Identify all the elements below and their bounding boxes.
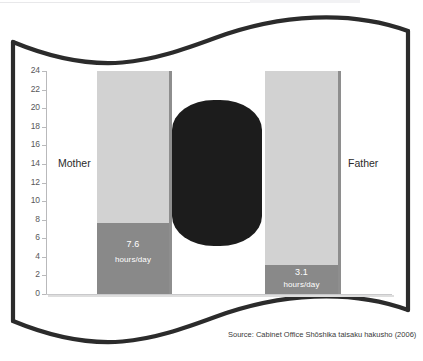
y-tick-mark-22 [42,90,46,91]
y-tick-label-14: 14 [16,159,40,168]
bar-father-remainder [265,71,338,265]
y-tick-label-22: 22 [16,85,40,94]
bar-mother[interactable]: 7.6 hours/day [97,71,172,294]
y-tick-mark-6 [42,238,46,239]
x-axis-line [46,294,392,295]
bar-father-value-label: 3.1 [265,267,338,278]
y-tick-mark-16 [42,145,46,146]
bar-mother-unit-label: hours/day [97,255,169,265]
y-tick-mark-12 [42,183,46,184]
bar-father-value-segment: 3.1 hours/day [265,265,338,294]
y-tick-label-16: 16 [16,140,40,149]
bar-mother-remainder [97,71,169,223]
y-tick-mark-10 [42,201,46,202]
bar-father-unit-label: hours/day [265,280,338,290]
y-tick-mark-20 [42,108,46,109]
source-note: Source: Cabinet Office Shōshika taisaku … [228,330,416,340]
y-tick-label-4: 4 [16,252,40,261]
plot-area: 24 22 20 18 16 14 12 10 8 6 4 2 0 7.6 h [0,0,423,361]
y-tick-mark-4 [42,257,46,258]
y-tick-mark-2 [42,275,46,276]
bar-father[interactable]: 3.1 hours/day [265,71,341,294]
bar-mother-value-label: 7.6 [97,239,169,250]
y-tick-mark-18 [42,127,46,128]
y-tick-label-10: 10 [16,196,40,205]
y-tick-mark-8 [42,220,46,221]
y-tick-label-6: 6 [16,233,40,242]
y-tick-mark-0 [42,294,46,295]
y-tick-label-8: 8 [16,215,40,224]
category-label-mother: Mother [58,157,91,169]
figure-canvas: 24 22 20 18 16 14 12 10 8 6 4 2 0 7.6 h [0,0,423,361]
x-axis-shadow [48,295,394,297]
y-tick-label-20: 20 [16,103,40,112]
bar-father-right-edge [338,71,341,294]
y-tick-label-24: 24 [16,66,40,75]
y-axis-line [46,71,47,295]
y-tick-label-2: 2 [16,270,40,279]
y-tick-mark-24 [42,71,46,72]
category-label-father: Father [348,157,378,169]
y-tick-mark-14 [42,164,46,165]
y-tick-label-18: 18 [16,122,40,131]
center-shape [172,100,262,246]
y-tick-label-12: 12 [16,178,40,187]
bar-mother-value-segment: 7.6 hours/day [97,223,169,294]
y-tick-label-0: 0 [16,289,40,298]
